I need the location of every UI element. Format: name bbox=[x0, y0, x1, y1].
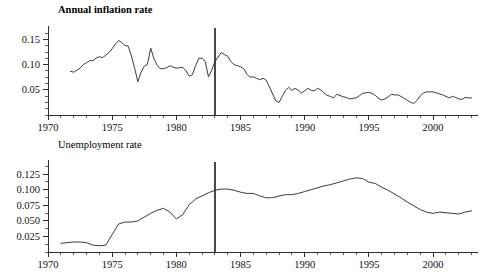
y-tick-label: 0.125 bbox=[16, 169, 40, 180]
panel-unemployment-rate: Unemployment rate19701975198019851990199… bbox=[0, 137, 496, 277]
x-tick-label: 1970 bbox=[38, 259, 59, 270]
figure-two-panel-timeseries: Annual inflation rate1970197519801985199… bbox=[0, 0, 496, 277]
x-tick-label: 1985 bbox=[230, 122, 251, 133]
x-tick-label: 1980 bbox=[166, 259, 187, 270]
x-tick-label: 1995 bbox=[358, 122, 379, 133]
y-tick-label: 0.100 bbox=[16, 184, 40, 195]
x-tick-label: 1975 bbox=[102, 122, 123, 133]
x-tick-label: 2000 bbox=[423, 122, 444, 133]
chart-unemployment-rate: Unemployment rate19701975198019851990199… bbox=[0, 137, 496, 277]
y-tick-label: 0.15 bbox=[22, 34, 40, 45]
x-tick-label: 1990 bbox=[294, 259, 315, 270]
panel-title: Unemployment rate bbox=[58, 139, 142, 150]
x-tick-label: 1985 bbox=[230, 259, 251, 270]
x-tick-label: 1975 bbox=[102, 259, 123, 270]
chart-annual-inflation-rate: Annual inflation rate1970197519801985199… bbox=[0, 0, 496, 140]
x-tick-label: 2000 bbox=[423, 259, 444, 270]
y-tick-label: 0.025 bbox=[16, 231, 40, 242]
x-tick-label: 1980 bbox=[166, 122, 187, 133]
x-tick-label: 1995 bbox=[358, 259, 379, 270]
series-line-inflation bbox=[70, 41, 471, 104]
panel-annual-inflation-rate: Annual inflation rate1970197519801985199… bbox=[0, 0, 496, 140]
y-tick-label: 0.075 bbox=[16, 200, 40, 211]
series-line-unemployment bbox=[61, 178, 472, 246]
x-tick-label: 1970 bbox=[38, 122, 59, 133]
x-tick-label: 1990 bbox=[294, 122, 315, 133]
y-tick-label: 0.10 bbox=[22, 59, 40, 70]
y-tick-label: 0.050 bbox=[16, 215, 40, 226]
panel-title: Annual inflation rate bbox=[58, 4, 153, 15]
y-tick-label: 0.05 bbox=[22, 84, 40, 95]
